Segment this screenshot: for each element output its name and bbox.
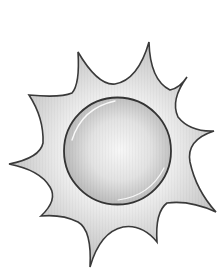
sun-icon	[0, 0, 224, 268]
disc-texture	[64, 98, 171, 205]
sun-illustration	[0, 0, 224, 268]
